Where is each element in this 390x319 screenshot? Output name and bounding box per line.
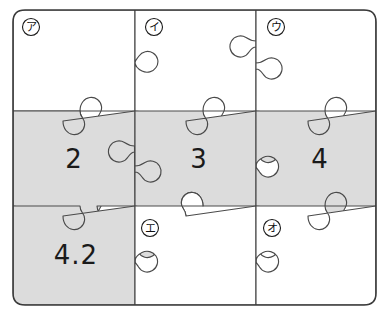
puzzle-figure: 2 3 4 4.2 ア イ ウ エ オ: [0, 0, 390, 319]
marker-a-label: ア: [26, 21, 37, 34]
puzzle-canvas: 2 3 4 4.2 ア イ ウ エ オ: [0, 0, 390, 319]
piece-value-r2c2: 3: [190, 144, 208, 174]
marker-e-label: エ: [145, 222, 156, 235]
marker-u-label: ウ: [271, 21, 282, 34]
piece-value-r3c1: 4.2: [54, 240, 98, 270]
marker-o-label: オ: [267, 222, 278, 235]
piece-value-r2c1: 2: [65, 144, 83, 174]
piece-value-r2c3: 4: [311, 144, 329, 174]
marker-i-label: イ: [149, 21, 160, 34]
